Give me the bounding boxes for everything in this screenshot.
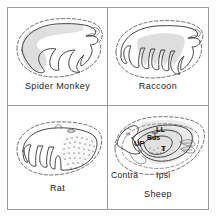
rat-stipple-region: [61, 134, 96, 168]
label-ll: LL: [156, 125, 165, 134]
label-t: T: [161, 144, 166, 153]
orientation-label-ipsi: Ipsi: [156, 170, 170, 180]
raccoon-inner-lamina-outline: [121, 26, 200, 75]
panel-raccoon: Raccoon: [108, 8, 208, 105]
panel-sheep: LL UP Bus T Contra Ipsi Sheep: [108, 106, 208, 209]
label-bus: Bus: [147, 134, 160, 141]
rat-drawing: [8, 106, 107, 209]
caption-sheep: Sheep: [108, 189, 208, 199]
panel-spider-monkey: Spider Monkey: [8, 8, 107, 105]
panel-rat: Rat: [8, 106, 107, 209]
caption-rat: Rat: [8, 183, 107, 193]
label-up: UP: [134, 139, 144, 148]
caption-raccoon: Raccoon: [108, 81, 208, 91]
monkey-shading: [21, 24, 84, 71]
orientation-label-contra: Contra: [111, 170, 138, 180]
figure-root: Spider Monkey Raccoon: [0, 0, 216, 217]
caption-spider-monkey: Spider Monkey: [8, 81, 107, 91]
